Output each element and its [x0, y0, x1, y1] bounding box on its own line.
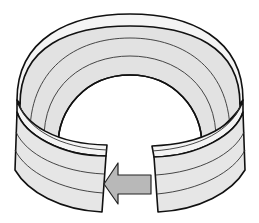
split-band-diagram — [0, 0, 259, 223]
arrow-left-icon — [104, 163, 151, 204]
